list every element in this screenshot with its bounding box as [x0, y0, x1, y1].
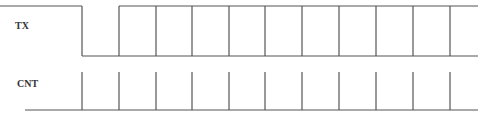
cnt-label: CNT — [17, 78, 38, 89]
tx-label: TX — [15, 20, 30, 31]
tx-waveform — [0, 6, 478, 56]
cnt-waveform — [25, 72, 478, 110]
timing-diagram: TX CNT — [0, 0, 480, 119]
